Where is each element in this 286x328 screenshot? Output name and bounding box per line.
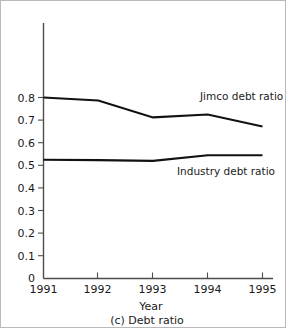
x-tick-label: 1995 <box>249 283 277 296</box>
y-tick-label: 0.5 <box>18 159 36 172</box>
series-line-industry-debt-ratio <box>44 155 263 161</box>
y-tick-label: 0.2 <box>18 227 36 240</box>
y-tick-label: 0.1 <box>18 250 36 263</box>
x-tick-label: 1994 <box>194 283 222 296</box>
y-tick-marks <box>38 98 44 256</box>
y-tick-label: 0.8 <box>18 92 36 105</box>
y-tick-label: 0.7 <box>18 114 36 127</box>
x-tick-label: 1991 <box>30 283 58 296</box>
x-axis-title: Year <box>138 300 163 313</box>
figure-caption: (c) Debt ratio <box>110 314 184 327</box>
y-tick-label: 0.4 <box>18 182 36 195</box>
chart-figure: 0.8 0.7 0.6 0.5 0.4 0.3 0.2 0.1 0 1991 1… <box>0 0 286 328</box>
series-label-industry-debt-ratio: Industry debt ratio <box>177 165 275 177</box>
y-axis-tick-labels: 0.8 0.7 0.6 0.5 0.4 0.3 0.2 0.1 0 <box>18 92 36 286</box>
x-axis-tick-labels: 1991 1992 1993 1994 1995 <box>30 283 277 296</box>
x-tick-label: 1992 <box>84 283 112 296</box>
x-tick-label: 1993 <box>139 283 167 296</box>
debt-ratio-line-chart: 0.8 0.7 0.6 0.5 0.4 0.3 0.2 0.1 0 1991 1… <box>1 1 286 328</box>
series-label-jimco-debt-ratio: Jimco debt ratio <box>199 90 283 102</box>
x-tick-marks <box>98 273 263 279</box>
y-tick-label: 0.3 <box>18 205 36 218</box>
y-tick-label: 0.6 <box>18 137 36 150</box>
